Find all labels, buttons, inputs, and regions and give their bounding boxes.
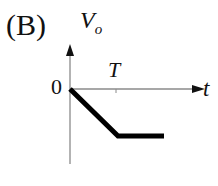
x-axis-arrow-icon	[192, 85, 205, 93]
y-axis-arrow-icon	[66, 44, 74, 56]
plot-area	[0, 0, 218, 186]
voltage-curve	[70, 89, 164, 136]
